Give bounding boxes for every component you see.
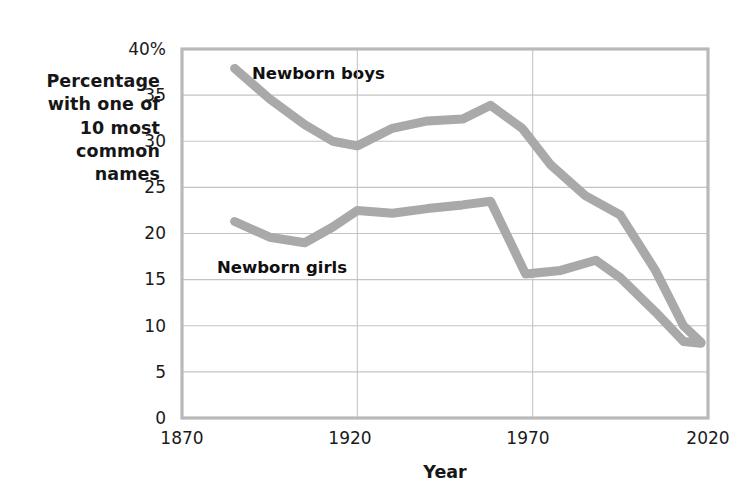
chart-figure: Percentage with one of 10 most common na… bbox=[0, 0, 756, 500]
series-line-newborn-girls bbox=[235, 201, 701, 343]
plot-area bbox=[0, 0, 756, 500]
series-lines bbox=[235, 68, 701, 343]
